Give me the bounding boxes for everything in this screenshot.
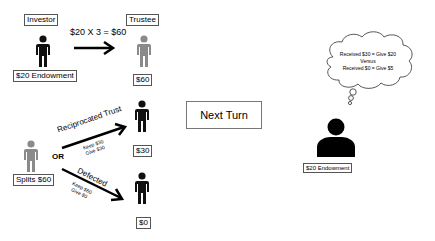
- next-turn-box: Next Turn: [186, 101, 262, 129]
- reciprocated-result: $30: [133, 145, 152, 157]
- player-bust-icon: [317, 119, 355, 158]
- investor-label: Investor: [24, 14, 58, 26]
- or-label: OR: [52, 152, 64, 161]
- reciprocated-person-icon: [135, 100, 149, 132]
- thought-text: Received $30 = Give $20 Versus Received …: [338, 51, 398, 72]
- player-endowment: $20 Endowment: [303, 163, 352, 173]
- defected-person-icon: [135, 172, 149, 204]
- splitter-label: Splits $60: [13, 174, 54, 186]
- splitter-person-icon: [24, 140, 38, 172]
- transfer-arrow-icon: [74, 42, 113, 54]
- investor-endowment: $20 Endowment: [13, 70, 77, 82]
- trustee-amount: $60: [133, 74, 152, 86]
- investor-person-icon: [36, 35, 50, 67]
- defected-result: $0: [136, 217, 151, 229]
- thought-versus: Versus: [338, 58, 398, 65]
- trustee-label: Trustee: [126, 14, 159, 26]
- trustee-person-icon: [137, 35, 151, 67]
- next-turn-label: Next Turn: [200, 109, 248, 121]
- thought-line-2: Received $0 = Give $5: [338, 65, 398, 72]
- transfer-equation: $20 X 3 = $60: [70, 27, 126, 37]
- thought-line-1: Received $30 = Give $20: [338, 51, 398, 58]
